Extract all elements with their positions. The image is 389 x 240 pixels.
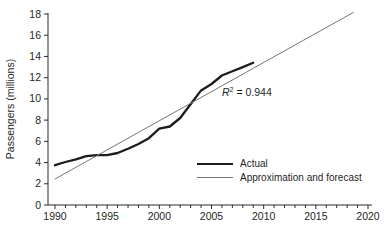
svg-text:6: 6 (35, 135, 41, 147)
svg-text:14: 14 (29, 50, 41, 62)
svg-text:12: 12 (29, 71, 41, 83)
svg-text:18: 18 (29, 8, 41, 20)
svg-text:2000: 2000 (148, 210, 172, 222)
line-chart-canvas: 0246810121416181990199520002005201020152… (0, 0, 389, 240)
legend-label-actual: Actual (240, 158, 268, 169)
r-squared-annotation: R2 = 0.944 (222, 86, 272, 98)
svg-text:2: 2 (35, 177, 41, 189)
r-squared-value: = 0.944 (234, 86, 272, 98)
legend-label-forecast: Approximation and forecast (240, 172, 362, 183)
svg-text:4: 4 (35, 156, 41, 168)
svg-text:2015: 2015 (304, 210, 328, 222)
svg-text:0: 0 (35, 199, 41, 211)
svg-text:2010: 2010 (252, 210, 276, 222)
actual-line-swatch (197, 163, 233, 165)
figure-page: { "chart_data": { "type": "line", "title… (0, 0, 389, 240)
r-squared-symbol: R (222, 86, 230, 98)
svg-text:10: 10 (29, 92, 41, 104)
svg-text:16: 16 (29, 29, 41, 41)
legend-item-actual: Actual (197, 157, 362, 170)
svg-text:8: 8 (35, 114, 41, 126)
data-series (55, 12, 353, 179)
legend-item-forecast: Approximation and forecast (197, 171, 362, 184)
y-axis-title: Passengers (millions) (4, 59, 16, 159)
svg-text:1995: 1995 (95, 210, 119, 222)
svg-text:1990: 1990 (43, 210, 67, 222)
axis-ticks-and-labels: 0246810121416181990199520002005201020152… (29, 8, 380, 223)
svg-text:2020: 2020 (356, 210, 380, 222)
svg-text:2005: 2005 (200, 210, 224, 222)
legend: Actual Approximation and forecast (197, 157, 362, 184)
forecast-line-swatch (197, 177, 233, 178)
